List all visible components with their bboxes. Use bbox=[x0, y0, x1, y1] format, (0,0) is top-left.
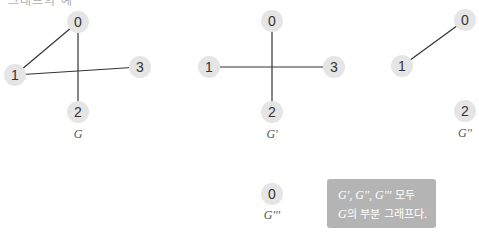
graph-label-g-prime: G' bbox=[266, 127, 278, 141]
edge-0-1 bbox=[402, 20, 465, 66]
svg-text:1: 1 bbox=[398, 58, 406, 74]
graph-label-g: G bbox=[74, 127, 83, 141]
node-0: 0 bbox=[261, 183, 283, 205]
note-line-1: G', G'', G''' 모두 bbox=[338, 186, 436, 205]
node-0: 0 bbox=[261, 10, 283, 32]
node-1: 1 bbox=[4, 64, 26, 86]
node-1: 1 bbox=[391, 55, 413, 77]
note-text: 모두 bbox=[391, 189, 415, 202]
svg-text:2: 2 bbox=[268, 104, 276, 120]
node-2: 2 bbox=[261, 101, 283, 123]
svg-text:3: 3 bbox=[330, 59, 338, 75]
node-0: 0 bbox=[67, 11, 89, 33]
graph-g-double-prime: 0 1 2 G'' bbox=[391, 9, 476, 140]
note-line-2: G의 부분 그래프다. bbox=[338, 205, 436, 224]
svg-text:2: 2 bbox=[461, 103, 469, 119]
graph-g: 0 1 2 3 G bbox=[4, 11, 151, 141]
node-2: 2 bbox=[454, 100, 476, 122]
svg-text:0: 0 bbox=[461, 12, 469, 28]
note-box: G', G'', G''' 모두 G의 부분 그래프다. bbox=[327, 179, 436, 228]
svg-text:1: 1 bbox=[205, 59, 213, 75]
svg-text:1: 1 bbox=[11, 67, 19, 83]
graph-g-triple-prime: 0 G''' bbox=[261, 183, 283, 222]
note-text: 의 부분 그래프다. bbox=[347, 208, 428, 221]
svg-text:0: 0 bbox=[268, 13, 276, 29]
svg-text:0: 0 bbox=[268, 186, 276, 202]
svg-text:0: 0 bbox=[74, 14, 82, 30]
graph-label-g-triple-prime: G''' bbox=[264, 208, 281, 222]
edge-0-1 bbox=[15, 22, 78, 75]
svg-text:2: 2 bbox=[74, 104, 82, 120]
node-3: 3 bbox=[129, 56, 151, 78]
note-symbol: G bbox=[338, 207, 347, 221]
node-1: 1 bbox=[198, 56, 220, 78]
graph-label-g-double-prime: G'' bbox=[458, 126, 472, 140]
svg-text:3: 3 bbox=[136, 59, 144, 75]
graph-g-prime: 0 1 2 3 G' bbox=[198, 10, 345, 141]
node-3: 3 bbox=[323, 56, 345, 78]
node-0: 0 bbox=[454, 9, 476, 31]
node-2: 2 bbox=[67, 101, 89, 123]
note-symbols: G', G'', G''' bbox=[338, 188, 391, 202]
